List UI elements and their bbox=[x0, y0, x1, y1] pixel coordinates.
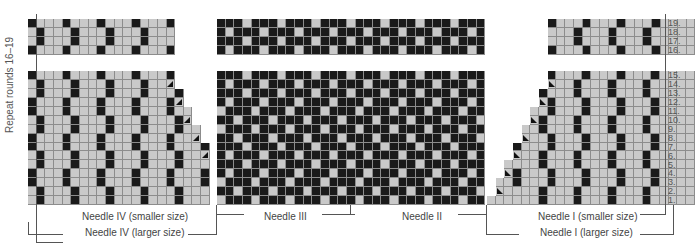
chart-cell bbox=[63, 37, 72, 46]
repeat-rounds-label: Repeat rounds 16–19 bbox=[4, 20, 18, 150]
chart-cell bbox=[373, 107, 382, 116]
chart-cell bbox=[201, 134, 210, 143]
chart-cell bbox=[132, 116, 141, 125]
chart-cell bbox=[496, 151, 505, 160]
chart-cell bbox=[442, 19, 451, 28]
chart-cell bbox=[304, 151, 313, 160]
chart-cell bbox=[149, 187, 158, 196]
chart-cell bbox=[192, 107, 201, 116]
chart-cell bbox=[286, 89, 295, 98]
chart-cell bbox=[192, 89, 201, 98]
chart-cell bbox=[356, 107, 365, 116]
chart-cell bbox=[373, 19, 382, 28]
chart-cell bbox=[442, 80, 451, 89]
chart-cell bbox=[504, 80, 513, 89]
bracket-line bbox=[188, 234, 216, 235]
bracket-line bbox=[640, 234, 674, 235]
chart-cell bbox=[260, 98, 269, 107]
chart-cell bbox=[539, 80, 548, 89]
chart-cell bbox=[634, 169, 643, 178]
chart-cell bbox=[286, 46, 295, 55]
chart-cell bbox=[330, 80, 339, 89]
chart-cell bbox=[626, 169, 635, 178]
chart-cell bbox=[373, 80, 382, 89]
bracket-line bbox=[216, 205, 217, 235]
chart-cell bbox=[600, 98, 609, 107]
chart-cell bbox=[54, 143, 63, 152]
chart-cell bbox=[548, 196, 557, 205]
chart-cell bbox=[677, 178, 686, 187]
chart-cell bbox=[201, 187, 210, 196]
chart-cell bbox=[234, 151, 243, 160]
chart-cell bbox=[45, 178, 54, 187]
chart-cell bbox=[175, 98, 184, 107]
chart-cell bbox=[565, 107, 574, 116]
chart-cell bbox=[522, 160, 531, 169]
chart-cell bbox=[37, 125, 46, 134]
chart-cell bbox=[425, 143, 434, 152]
chart-cell bbox=[496, 89, 505, 98]
chart-cell bbox=[399, 187, 408, 196]
chart-cell bbox=[600, 46, 609, 55]
chart-cell bbox=[149, 178, 158, 187]
chart-cell bbox=[295, 98, 304, 107]
chart-cell bbox=[425, 19, 434, 28]
chart-cell bbox=[54, 187, 63, 196]
chart-cell bbox=[407, 125, 416, 134]
chart-cell bbox=[574, 196, 583, 205]
chart-cell bbox=[286, 151, 295, 160]
chart-cell bbox=[356, 46, 365, 55]
chart-cell bbox=[63, 46, 72, 55]
chart-cell bbox=[71, 187, 80, 196]
chart-cell bbox=[468, 169, 477, 178]
chart-cell bbox=[54, 125, 63, 134]
chart-cell bbox=[530, 89, 539, 98]
chart-cell bbox=[591, 80, 600, 89]
chart-cell bbox=[513, 169, 522, 178]
chart-cell bbox=[574, 116, 583, 125]
chart-cell bbox=[295, 116, 304, 125]
chart-cell bbox=[321, 196, 330, 205]
chart-cell bbox=[167, 98, 176, 107]
chart-cell bbox=[433, 125, 442, 134]
chart-cell bbox=[201, 71, 210, 80]
chart-cell bbox=[582, 160, 591, 169]
chart-cell bbox=[399, 19, 408, 28]
chart-cell bbox=[416, 71, 425, 80]
chart-cell bbox=[269, 125, 278, 134]
chart-cell bbox=[269, 37, 278, 46]
chart-cell bbox=[71, 134, 80, 143]
chart-cell bbox=[556, 187, 565, 196]
chart-cell bbox=[477, 196, 486, 205]
chart-cell bbox=[433, 37, 442, 46]
chart-cell bbox=[530, 169, 539, 178]
chart-cell bbox=[106, 28, 115, 37]
chart-cell bbox=[330, 178, 339, 187]
chart-cell bbox=[416, 143, 425, 152]
chart-cell bbox=[71, 37, 80, 46]
chart-cell bbox=[37, 28, 46, 37]
bracket-line bbox=[350, 205, 351, 215]
chart-cell bbox=[459, 98, 468, 107]
chart-cell bbox=[364, 169, 373, 178]
chart-cell bbox=[260, 80, 269, 89]
chart-cell bbox=[442, 107, 451, 116]
chart-cell bbox=[304, 107, 313, 116]
chart-cell bbox=[149, 160, 158, 169]
chart-cell bbox=[192, 143, 201, 152]
chart-cell bbox=[556, 116, 565, 125]
chart-cell bbox=[252, 187, 261, 196]
chart-cell bbox=[600, 107, 609, 116]
chart-cell bbox=[459, 169, 468, 178]
chart-cell bbox=[530, 143, 539, 152]
chart-cell bbox=[407, 196, 416, 205]
chart-cell bbox=[591, 116, 600, 125]
chart-cell bbox=[286, 125, 295, 134]
chart-cell bbox=[468, 46, 477, 55]
chart-cell bbox=[286, 178, 295, 187]
chart-cell bbox=[63, 143, 72, 152]
chart-cell bbox=[548, 46, 557, 55]
chart-cell bbox=[141, 89, 150, 98]
chart-cell bbox=[583, 46, 592, 55]
chart-cell bbox=[442, 116, 451, 125]
